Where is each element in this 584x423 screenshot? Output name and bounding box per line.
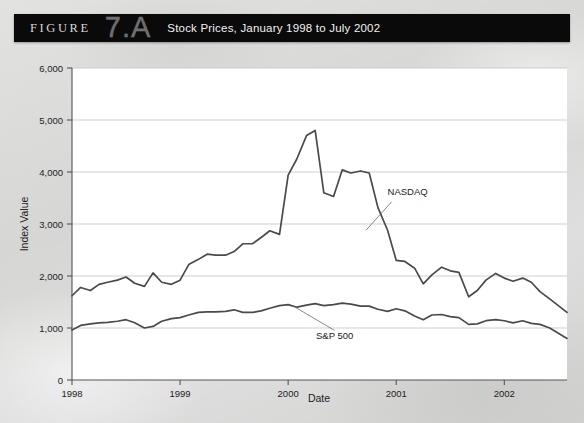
y-tick-label: 2,000 — [39, 271, 63, 282]
x-axis-tick-labels: 19981999200020012002 — [61, 388, 514, 399]
chart-panel: 01,0002,0003,0004,0005,0006,000 19981999… — [14, 50, 570, 408]
x-tick-label: 2002 — [494, 388, 515, 399]
figure-number-label: 7.A — [105, 13, 152, 42]
figure-title-label: Stock Prices, January 1998 to July 2002 — [167, 22, 380, 34]
stock-prices-line-chart: 01,0002,0003,0004,0005,0006,000 19981999… — [14, 50, 570, 408]
x-axis-title: Date — [308, 392, 330, 404]
x-tick-label: 2000 — [278, 388, 299, 399]
y-tick-label: 6,000 — [39, 63, 63, 74]
y-axis-ticks — [67, 68, 72, 380]
x-axis-ticks — [72, 380, 504, 385]
figure-header-bar: FIGURE 7.A Stock Prices, January 1998 to… — [14, 14, 570, 42]
x-tick-label: 2001 — [386, 388, 407, 399]
y-tick-label: 4,000 — [39, 167, 63, 178]
y-tick-label: 1,000 — [39, 323, 63, 334]
figure-word-label: FIGURE — [30, 21, 91, 36]
y-axis-title: Index Value — [18, 197, 30, 252]
y-tick-label: 3,000 — [39, 219, 63, 230]
y-tick-label: 5,000 — [39, 115, 63, 126]
x-tick-label: 1999 — [170, 388, 191, 399]
nasdaq-series-label: NASDAQ — [388, 186, 428, 197]
sp500-series-label: S&P 500 — [316, 330, 353, 341]
y-tick-label: 0 — [58, 375, 63, 386]
x-tick-label: 1998 — [61, 388, 82, 399]
y-axis-tick-labels: 01,0002,0003,0004,0005,0006,000 — [39, 63, 63, 386]
